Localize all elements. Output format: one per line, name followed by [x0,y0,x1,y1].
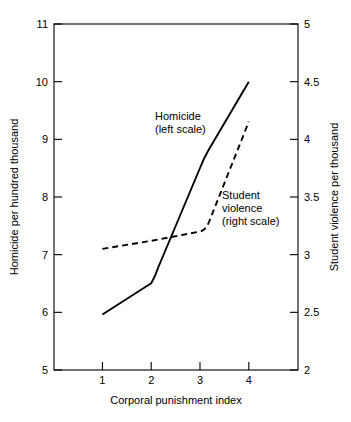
x-tick-label-2: 2 [148,374,154,386]
right-tick-label-5: 5 [304,18,310,30]
left-tick-label-6: 6 [42,306,48,318]
left-tick-label-5: 5 [42,364,48,376]
left-tick-label-9: 9 [42,133,48,145]
x-tick-label-4: 4 [246,374,252,386]
right-tick-label-2: 2 [304,364,310,376]
x-axis-tick-labels: 1 2 3 4 [99,374,252,386]
x-tick-label-3: 3 [197,374,203,386]
x-axis-ticks [102,362,248,370]
line-chart-canvas: 5 6 7 8 9 10 11 2 2.5 3 3.5 4 4.5 5 [0,0,351,422]
right-tick-label-4_5: 4.5 [304,76,319,88]
right-tick-label-3_5: 3.5 [304,191,319,203]
student-violence-line [102,122,248,249]
right-tick-label-3: 3 [304,249,310,261]
chart-figure: 5 6 7 8 9 10 11 2 2.5 3 3.5 4 4.5 5 [0,0,351,422]
student-violence-series-label-line1: Student [222,189,260,201]
right-axis-tick-labels: 2 2.5 3 3.5 4 4.5 5 [304,18,319,376]
right-axis-ticks [290,24,298,370]
x-tick-label-1: 1 [99,374,105,386]
left-tick-label-7: 7 [42,249,48,261]
plot-frame [54,24,298,370]
left-axis-ticks [54,24,62,370]
student-violence-series-label-line2: violence [222,202,262,214]
right-tick-label-2_5: 2.5 [304,306,319,318]
left-tick-label-8: 8 [42,191,48,203]
student-violence-series-label: Student violence (right scale) [222,189,279,227]
left-y-axis-title: Homicide per hundred thousand [8,119,20,276]
x-axis-title: Corporal punishment index [110,394,242,406]
student-violence-series-label-line3: (right scale) [222,215,279,227]
left-axis-tick-labels: 5 6 7 8 9 10 11 [36,18,48,376]
right-y-axis-title: Student violence per thousand [328,123,340,272]
left-tick-label-10: 10 [36,76,48,88]
homicide-series-label-line2: (left scale) [155,123,206,135]
left-tick-label-11: 11 [37,18,48,30]
homicide-series-label-line1: Homicide [155,110,201,122]
homicide-series-label: Homicide (left scale) [155,110,206,135]
right-tick-label-4: 4 [304,133,310,145]
